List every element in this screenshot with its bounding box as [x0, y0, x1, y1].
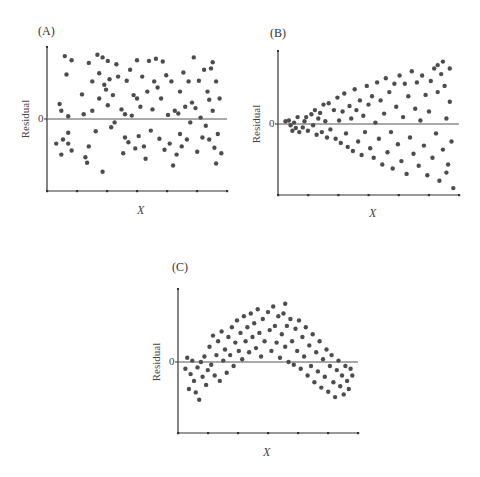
data-point [252, 321, 256, 325]
data-point [214, 353, 218, 357]
data-point [216, 339, 220, 343]
data-point [249, 311, 253, 315]
data-point [333, 395, 337, 399]
data-point [319, 385, 323, 389]
data-point [278, 356, 282, 360]
data-point [219, 329, 223, 333]
data-point [269, 349, 273, 353]
data-point [225, 371, 229, 375]
data-point [257, 331, 261, 335]
data-point [343, 364, 347, 368]
data-point [297, 318, 301, 322]
data-point [312, 380, 316, 384]
data-point [335, 368, 339, 372]
data-point [200, 375, 204, 379]
data-point [188, 372, 192, 376]
data-point [326, 390, 330, 394]
data-point [292, 363, 296, 367]
data-point [243, 339, 247, 343]
data-point [266, 310, 270, 314]
data-point [302, 354, 306, 358]
data-point [242, 314, 246, 318]
data-point [338, 384, 342, 388]
data-point [240, 357, 244, 361]
data-point [218, 379, 222, 383]
data-point [347, 387, 351, 391]
data-point [261, 317, 265, 321]
data-point [204, 383, 208, 387]
data-point [314, 350, 318, 354]
data-point [317, 339, 321, 343]
data-point [254, 346, 258, 350]
x-axis-tick [357, 432, 359, 434]
data-point [283, 302, 287, 306]
data-point [197, 398, 201, 402]
data-point [273, 324, 277, 328]
x-axis-tick [237, 432, 239, 434]
data-point [226, 335, 230, 339]
x-axis-tick [177, 432, 179, 434]
data-point [316, 369, 320, 373]
data-point [202, 354, 206, 358]
data-point [206, 368, 210, 372]
data-point [345, 379, 349, 383]
data-point [192, 379, 196, 383]
data-point [209, 363, 213, 367]
data-point [268, 328, 272, 332]
data-point [259, 354, 263, 358]
data-point [288, 317, 292, 321]
data-point [329, 353, 333, 357]
data-point [238, 331, 242, 335]
data-point [223, 347, 227, 351]
data-point [233, 340, 237, 344]
data-point [304, 325, 308, 329]
data-point [286, 360, 290, 364]
data-point [195, 365, 199, 369]
data-point [295, 349, 299, 353]
data-point [245, 325, 249, 329]
data-point [213, 373, 217, 377]
data-point [321, 357, 325, 361]
data-point [331, 380, 335, 384]
data-point [305, 373, 309, 377]
data-point [221, 358, 225, 362]
data-point [185, 356, 189, 360]
data-point [194, 390, 198, 394]
data-point [283, 345, 287, 349]
data-point [336, 358, 340, 362]
data-point [250, 335, 254, 339]
data-point [231, 364, 235, 368]
data-point [262, 339, 266, 343]
data-point [328, 364, 332, 368]
data-point [309, 364, 313, 368]
data-point [293, 327, 297, 331]
data-point [290, 339, 294, 343]
data-point [237, 349, 241, 353]
x-axis-tick [207, 432, 209, 434]
data-point [300, 335, 304, 339]
data-point [256, 307, 260, 311]
data-point [311, 332, 315, 336]
data-point [235, 318, 239, 322]
data-point [307, 343, 311, 347]
data-point [350, 373, 354, 377]
x-axis-tick [297, 432, 299, 434]
scatter-plot-c [0, 0, 480, 477]
data-point [228, 353, 232, 357]
data-point [274, 340, 278, 344]
data-point [190, 358, 194, 362]
data-point [207, 345, 211, 349]
data-point [299, 367, 303, 371]
data-point [324, 347, 328, 351]
panel-c: (C) Residual 0 X [0, 0, 480, 477]
data-point [323, 375, 327, 379]
data-point [340, 373, 344, 377]
x-axis-tick [267, 432, 269, 434]
data-point [211, 333, 215, 337]
data-point [342, 392, 346, 396]
data-point [187, 387, 191, 391]
data-point [183, 367, 187, 371]
data-point [230, 325, 234, 329]
y-axis-tick [177, 288, 179, 290]
data-point [271, 304, 275, 308]
